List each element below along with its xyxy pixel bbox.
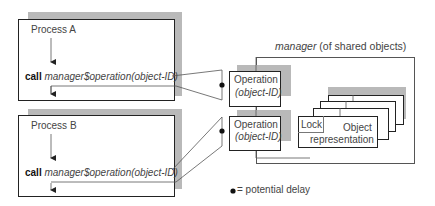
connector-lines [0,0,435,206]
delay-dot-a [219,82,224,87]
legend-dot [230,188,235,193]
delay-dot-b [219,128,224,133]
legend-text: = potential delay [237,184,310,195]
